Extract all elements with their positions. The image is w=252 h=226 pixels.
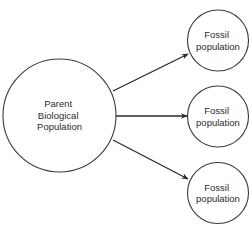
edges-group bbox=[113, 54, 188, 179]
arrow-parent-to-fossil-1 bbox=[113, 54, 188, 91]
fossil-3-label-line-1: Fossil bbox=[204, 182, 229, 193]
population-diagram: Parent Biological Population Fossil popu… bbox=[0, 0, 252, 226]
parent-label-line-1: Parent bbox=[44, 98, 72, 109]
arrow-parent-to-fossil-3 bbox=[113, 140, 188, 179]
fossil-1-label-line-2: population bbox=[196, 41, 240, 52]
node-fossil-population-3: Fossil population bbox=[188, 163, 249, 224]
fossil-3-label-line-2: population bbox=[196, 193, 240, 204]
parent-label-line-3: Population bbox=[37, 121, 82, 132]
fossil-1-label-line-1: Fossil bbox=[204, 29, 229, 40]
node-fossil-population-1: Fossil population bbox=[188, 10, 249, 71]
node-fossil-population-2: Fossil population bbox=[188, 86, 249, 147]
parent-label-line-2: Biological bbox=[38, 110, 79, 121]
node-parent-population: Parent Biological Population bbox=[3, 59, 116, 172]
fossil-2-label-line-1: Fossil bbox=[204, 105, 229, 116]
fossil-2-label-line-2: population bbox=[196, 117, 240, 128]
